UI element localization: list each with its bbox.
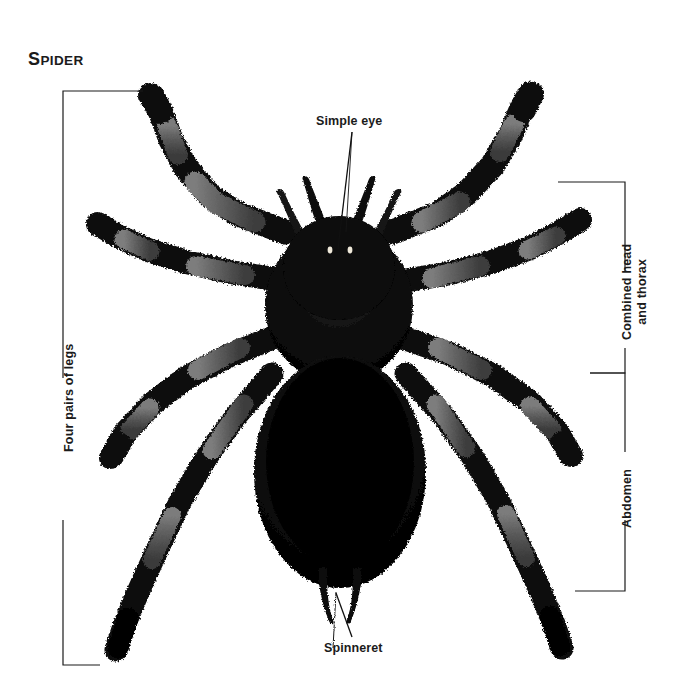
- figure-page: SPIDER: [0, 0, 677, 699]
- label-spinneret: Spinneret: [324, 641, 383, 655]
- label-combined-head-and-thorax: Combined head and thorax: [620, 244, 650, 340]
- spider-illustration: [0, 0, 677, 699]
- spider-figure: [0, 0, 677, 699]
- label-simple-eye: Simple eye: [316, 114, 382, 128]
- leg-left-1: [150, 95, 285, 232]
- label-four-pairs-of-legs: Four pairs of legs: [62, 344, 76, 452]
- spider-abdomen: [254, 356, 426, 588]
- label-abdomen: Abdomen: [620, 469, 634, 528]
- label-combined-head-and-thorax-line1: Combined head: [620, 244, 635, 340]
- label-combined-head-and-thorax-line2: and thorax: [635, 244, 650, 340]
- leg-right-1: [392, 94, 532, 232]
